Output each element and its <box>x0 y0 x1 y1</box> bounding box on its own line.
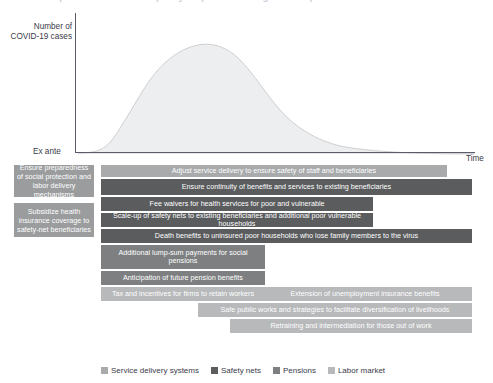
table-row[interactable]: Scale-up of safety nets to existing bene… <box>101 213 373 227</box>
sidebar-bar-1[interactable]: Subsidize health insurance coverage to s… <box>14 203 94 237</box>
table-row[interactable]: Anticipation of future pension benefits <box>101 271 265 285</box>
legend-label: Safety nets <box>221 366 261 375</box>
legend-swatch-icon <box>101 367 108 374</box>
table-row[interactable]: Adjust service delivery to ensure safety… <box>101 165 447 177</box>
table-row[interactable]: Tax and incentives for firms to retain w… <box>101 287 265 301</box>
page-title: Social protection and labor policy respo… <box>28 0 355 2</box>
legend-label: Pensions <box>283 366 316 375</box>
table-row[interactable]: Death benefits to uninsured poor househo… <box>101 229 472 243</box>
table-row[interactable]: Fee waivers for health services for poor… <box>101 197 373 211</box>
legend: Service delivery systems Safety nets Pen… <box>0 362 493 378</box>
y-axis-label: Number of COVID-19 cases <box>6 22 72 42</box>
ex-ante-label: Ex ante <box>33 147 61 156</box>
legend-swatch-icon <box>328 367 335 374</box>
y-axis-line <box>75 13 76 153</box>
table-row[interactable]: Retraining and intermediation for those … <box>230 319 472 333</box>
x-axis-line <box>75 152 475 153</box>
legend-item-safety-nets[interactable]: Safety nets <box>211 366 268 375</box>
table-row[interactable]: Extension of unemployment insurance bene… <box>258 287 472 301</box>
legend-label: Labor market <box>338 366 385 375</box>
table-row[interactable]: Safe public works and strategies to faci… <box>198 303 472 317</box>
epidemic-curve-chart: Number of COVID-19 cases Ex ante Time <box>0 8 493 160</box>
legend-item-pensions[interactable]: Pensions <box>273 366 323 375</box>
legend-item-service-delivery[interactable]: Service delivery systems <box>101 366 206 375</box>
legend-swatch-icon <box>211 367 218 374</box>
y-axis-label-line2: COVID-19 cases <box>6 32 72 42</box>
sidebar-bar-0[interactable]: Ensure preparedness of social protection… <box>14 165 94 197</box>
table-row[interactable]: Ensure continuity of benefits and servic… <box>101 179 472 195</box>
infographic-root: Social protection and labor policy respo… <box>0 0 493 383</box>
table-row[interactable]: Additional lump-sum payments for social … <box>101 245 265 269</box>
legend-swatch-icon <box>273 367 280 374</box>
legend-label: Service delivery systems <box>111 366 199 375</box>
legend-item-labor-market[interactable]: Labor market <box>328 366 392 375</box>
epidemic-curve-area <box>0 8 493 160</box>
y-axis-label-line1: Number of <box>6 22 72 32</box>
intervention-timeline: Ensure preparedness of social protection… <box>0 160 493 356</box>
